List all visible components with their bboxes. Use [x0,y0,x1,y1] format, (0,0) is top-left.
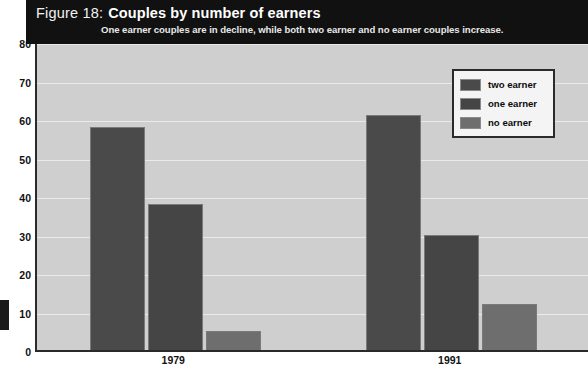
x-axis-tick-label: 1979 [162,354,185,366]
y-axis-tick-label: 20 [0,269,31,281]
chart-legend: two earnerone earnerno earner [452,69,555,138]
figure-number: Figure 18: [36,5,103,21]
bar-no-earner-1991 [482,304,537,350]
y-axis-tick-label: 60 [0,115,31,127]
legend-label: two earner [488,79,537,90]
legend-label: one earner [488,98,537,109]
legend-item: two earner [460,76,547,93]
bar-one-earner-1979 [148,204,203,350]
figure-subtitle: One earner couples are in decline, while… [101,24,503,35]
figure-container: Figure 18:Couples by number of earners O… [0,0,588,372]
x-axis-tick-label: 1991 [438,354,461,366]
title-line: Figure 18:Couples by number of earners [36,4,321,22]
gridline [37,44,588,45]
y-axis-tick-label: 50 [0,154,31,166]
page-title: Couples by number of earners [108,5,320,21]
figure-title-banner: Figure 18:Couples by number of earners O… [26,0,588,44]
legend-item: one earner [460,95,547,112]
legend-item: no earner [460,114,547,131]
bar-one-earner-1991 [424,235,479,351]
y-axis-tick-label: 70 [0,77,31,89]
x-axis-tick-labels: 19791991 [35,354,588,372]
bar-two-earner-1991 [366,115,421,350]
bar-two-earner-1979 [90,127,145,350]
legend-swatch-icon [460,98,481,110]
legend-swatch-icon [460,117,481,129]
legend-swatch-icon [460,79,481,91]
left-margin-marker [0,300,9,330]
bar-no-earner-1979 [206,331,261,350]
legend-label: no earner [488,117,532,128]
y-axis-tick-label: 40 [0,192,31,204]
y-axis-tick-label: 30 [0,231,31,243]
y-axis-tick-label: 0 [0,346,31,358]
